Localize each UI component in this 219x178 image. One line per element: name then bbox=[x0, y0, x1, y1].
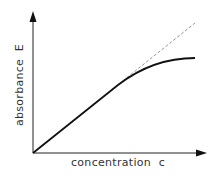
x-axis-arrow-icon bbox=[196, 150, 207, 157]
x-axis-label: concentration c bbox=[71, 156, 165, 169]
y-axis-arrow-icon bbox=[30, 11, 37, 22]
y-axis-label: absorbance E bbox=[13, 44, 26, 126]
absorbance-curve bbox=[33, 58, 195, 153]
chart-canvas bbox=[0, 0, 219, 178]
